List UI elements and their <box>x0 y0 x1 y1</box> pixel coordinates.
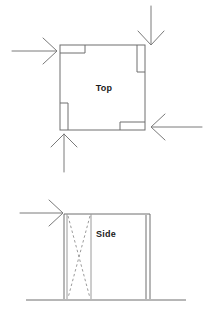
side-view-group: Side <box>20 200 186 300</box>
bottom-right-notch <box>120 122 145 130</box>
side-view-body <box>64 214 150 299</box>
top-right-notch <box>137 45 145 72</box>
side-view-outline <box>64 214 150 299</box>
arrow-side-left-icon <box>20 200 63 226</box>
technical-drawing: Top Side <box>0 0 208 310</box>
diagram-canvas: Top Side <box>0 0 208 310</box>
top-left-notch <box>60 45 85 53</box>
side-view-arrows <box>20 200 63 226</box>
side-view-label: Side <box>96 229 116 239</box>
top-view-group: Top <box>12 6 202 172</box>
arrow-bottom-icon <box>51 134 77 172</box>
side-view-brace-panel <box>67 214 91 299</box>
arrow-top-icon <box>138 6 164 45</box>
bottom-left-notch <box>60 103 68 130</box>
arrow-right-icon <box>151 114 202 140</box>
top-view-label: Top <box>96 83 113 93</box>
arrow-left-icon <box>12 38 57 64</box>
